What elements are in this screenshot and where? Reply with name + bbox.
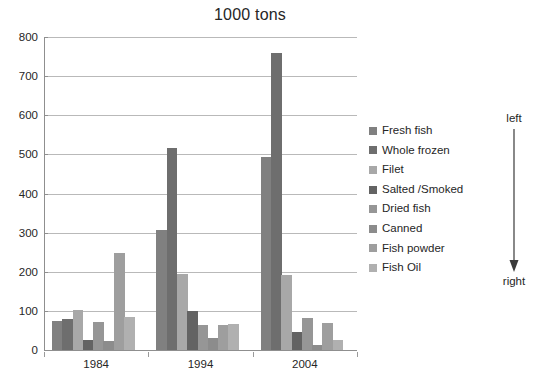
legend-swatch-icon [369,127,377,135]
y-axis-tick-mark [44,311,48,312]
legend-item: Salted /Smoked [369,180,474,200]
bar [228,324,239,350]
x-axis-separator [253,352,254,357]
y-axis-tick-label: 800 [4,31,38,43]
bar [62,319,73,350]
y-axis-tick-mark [44,350,48,351]
bar [103,341,114,350]
y-axis-tick-mark [44,115,48,116]
bar-chart: 1000 tons 0100200300400500600700800 1984… [0,0,543,386]
legend-swatch-icon [369,146,377,154]
down-arrow-icon [488,129,540,273]
legend-swatch-icon [369,225,377,233]
y-axis-tick-mark [44,76,48,77]
y-axis-tick-mark [44,194,48,195]
chart-title: 1000 tons [120,6,380,24]
legend-swatch-icon [369,205,377,213]
bar [52,321,63,350]
bar [167,148,178,350]
annotation-bottom-label: right [488,275,540,287]
legend-swatch-icon [369,186,377,194]
bar [292,332,303,350]
x-axis-separator [44,352,45,357]
bars-layer [44,37,357,350]
x-axis-separator [357,352,358,357]
legend-label: Dried fish [382,203,431,215]
bar [312,345,323,350]
y-axis-tick-labels: 0100200300400500600700800 [0,37,38,350]
x-axis-category-label: 1984 [83,358,109,370]
bar [83,340,94,350]
plot-area [44,37,357,350]
bar [73,310,84,350]
y-axis-tick-label: 100 [4,305,38,317]
bar [271,53,282,350]
legend-item: Filet [369,160,474,180]
legend-item: Canned [369,219,474,239]
legend-label: Filet [382,164,404,176]
bar [124,317,135,350]
y-axis-tick-label: 600 [4,109,38,121]
gridline [44,350,357,351]
x-axis-category-labels: 198419942004 [44,352,357,374]
bar [322,323,333,350]
bar [114,253,125,350]
y-axis-tick-label: 300 [4,227,38,239]
bar [261,157,272,350]
legend-label: Fish Oil [382,262,421,274]
y-axis-tick-mark [44,233,48,234]
chart-legend: Fresh fishWhole frozenFiletSalted /Smoke… [369,121,474,278]
order-annotation: left right [488,112,540,292]
legend-item: Dried fish [369,199,474,219]
bar [281,275,292,350]
x-axis-separator [148,352,149,357]
bar [333,340,344,350]
y-axis-tick-label: 0 [4,344,38,356]
y-axis-tick-label: 700 [4,70,38,82]
legend-swatch-icon [369,166,377,174]
legend-label: Salted /Smoked [382,184,463,196]
bar [208,338,219,350]
x-axis-category-label: 2004 [292,358,318,370]
bar [156,230,167,351]
legend-item: Fish powder [369,239,474,259]
legend-swatch-icon [369,244,377,252]
bar [218,325,229,350]
legend-label: Canned [382,223,422,235]
bar [93,322,104,350]
y-axis-tick-mark [44,272,48,273]
bar [302,318,313,350]
bar [187,311,198,350]
bar [177,274,188,350]
x-axis-category-label: 1994 [188,358,214,370]
y-axis-tick-mark [44,154,48,155]
legend-swatch-icon [369,264,377,272]
y-axis-tick-label: 500 [4,148,38,160]
legend-item: Fish Oil [369,258,474,278]
y-axis-tick-label: 200 [4,266,38,278]
bar [198,325,209,350]
annotation-top-label: left [488,112,540,124]
legend-item: Whole frozen [369,141,474,161]
y-axis-tick-label: 400 [4,188,38,200]
legend-label: Fish powder [382,243,445,255]
y-axis-tick-mark [44,37,48,38]
legend-label: Whole frozen [382,145,450,157]
legend-item: Fresh fish [369,121,474,141]
legend-label: Fresh fish [382,125,433,137]
